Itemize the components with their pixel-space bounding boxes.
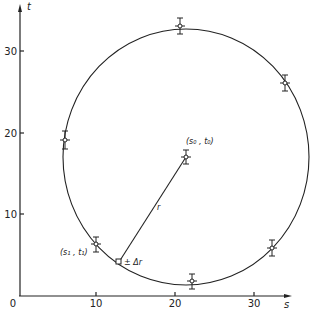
x-axis-arrow-icon — [284, 294, 292, 298]
data-points — [60, 18, 290, 289]
delta-r-label: ± Δr — [124, 258, 143, 267]
y-axis-label: t — [27, 1, 32, 12]
data-point — [267, 240, 277, 256]
point1-label: (s₁ , t₁) — [60, 248, 88, 257]
tick-x-10: 10 — [90, 298, 103, 309]
data-point — [280, 75, 290, 91]
tick-y-30: 30 — [4, 46, 17, 57]
radius-label: r — [157, 203, 161, 212]
tick-x-30: 30 — [248, 298, 261, 309]
center-label: (s₀ , t₀) — [186, 137, 214, 146]
x-axis-label: s — [284, 299, 289, 310]
tick-x-20: 20 — [169, 298, 182, 309]
data-point — [175, 18, 185, 34]
tick-x-0: 0 — [10, 298, 16, 309]
tick-y-20: 20 — [4, 128, 17, 139]
data-point — [91, 237, 101, 252]
radius-line — [119, 157, 186, 262]
circle-fit-chart: 0 10 20 30 10 20 30 t s — [0, 0, 310, 314]
y-axis-arrow-icon — [18, 4, 22, 12]
data-point — [60, 131, 70, 149]
data-point — [187, 274, 197, 289]
radius-end-point — [116, 259, 121, 264]
tick-y-10: 10 — [4, 209, 17, 220]
